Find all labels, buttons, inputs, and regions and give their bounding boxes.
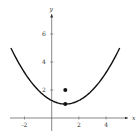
x-axis-label: x	[132, 114, 136, 121]
vertex-point	[63, 102, 67, 106]
parabola-curve	[11, 48, 120, 104]
y-axis-label: y	[49, 5, 54, 13]
x-tick-label: 4	[104, 121, 108, 128]
y-tick-label: 4	[42, 58, 46, 65]
y-tick-label: 6	[42, 30, 46, 37]
x-tick-label: 2	[77, 121, 81, 128]
focus-point	[63, 88, 67, 92]
chart-canvas: -2 2 4 2 4 6 x y	[0, 0, 140, 135]
y-tick-label: 2	[42, 86, 46, 93]
x-tick-label: -2	[22, 121, 28, 128]
